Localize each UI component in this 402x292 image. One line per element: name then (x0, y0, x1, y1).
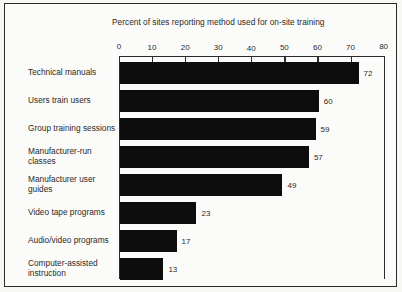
category-label: Users train users (28, 95, 120, 106)
plot-area: 7260595749231713 (119, 56, 385, 279)
bar (120, 90, 318, 112)
bar-value-label: 13 (168, 265, 177, 274)
bar-value-label: 59 (321, 125, 330, 134)
x-tick-label: 70 (346, 43, 355, 52)
bar-row: 13 (120, 258, 385, 280)
x-tick-label: 10 (148, 43, 157, 52)
chart-frame: Percent of sites reporting method used f… (4, 3, 397, 287)
bar-value-label: 23 (201, 209, 210, 218)
chart-figure: Percent of sites reporting method used f… (0, 0, 402, 292)
bar (120, 118, 315, 140)
x-tick-label: 80 (379, 42, 388, 51)
bar-row: 49 (120, 174, 385, 196)
bar-row: 23 (120, 202, 385, 224)
bar-value-label: 60 (324, 97, 333, 106)
category-label: Computer-assisted instruction (28, 258, 120, 279)
bar-row: 72 (120, 62, 385, 84)
bar-row: 17 (120, 230, 385, 252)
bar-row: 57 (120, 146, 385, 168)
bar-value-label: 72 (364, 69, 373, 78)
bar (120, 258, 163, 280)
bar-value-label: 17 (182, 237, 191, 246)
x-tick-label: 30 (214, 43, 223, 52)
category-label: Manufacturer user guides (28, 174, 120, 195)
bar-row: 60 (120, 90, 385, 112)
bar-value-label: 49 (287, 181, 296, 190)
bar (120, 230, 176, 252)
category-label: Group training sessions (28, 123, 120, 134)
bar-row: 59 (120, 118, 385, 140)
x-tick-label: 60 (313, 43, 322, 52)
bar (120, 62, 358, 84)
bar (120, 174, 282, 196)
x-tick-label: 50 (280, 43, 289, 52)
bar-value-label: 57 (314, 153, 323, 162)
bar (120, 146, 309, 168)
bar (120, 202, 196, 224)
category-label: Video tape programs (28, 207, 120, 218)
category-label: Audio/video programs (28, 235, 120, 246)
category-label: Technical manuals (28, 67, 120, 78)
x-tick-label: 0 (117, 42, 121, 51)
category-label: Manufacturer-run classes (28, 146, 120, 167)
chart-title: Percent of sites reporting method used f… (112, 17, 324, 27)
x-tick-label: 20 (181, 43, 190, 52)
x-tick-label: 40 (247, 44, 256, 53)
